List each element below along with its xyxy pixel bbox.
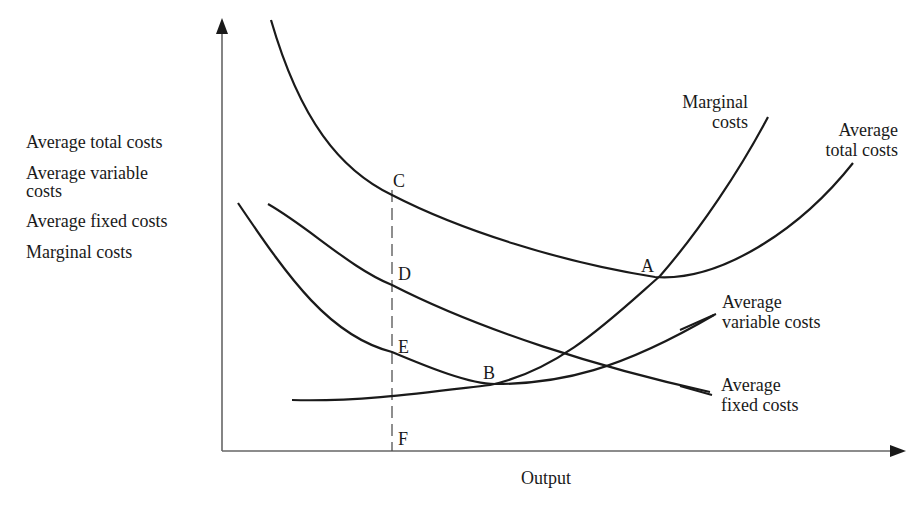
- point-label-b: B: [483, 363, 495, 383]
- axes: [216, 18, 906, 457]
- x-axis-arrow-icon: [890, 445, 906, 457]
- y-axis-label-atc: Average total costs: [26, 133, 163, 152]
- y-axis-label-afc: Average fixed costs: [26, 212, 168, 231]
- point-label-a: A: [641, 256, 654, 276]
- point-label-e: E: [398, 337, 409, 357]
- average-fixed-costs-label: Average fixed costs: [721, 375, 798, 415]
- y-axis-label-mc: Marginal costs: [26, 243, 132, 262]
- afc-label-line1: Average: [721, 375, 798, 395]
- atc-label-line2: total costs: [800, 140, 898, 160]
- average-total-costs-label: Average total costs: [800, 120, 898, 160]
- marginal-costs-curve: [292, 117, 768, 400]
- average-variable-costs-label: Average variable costs: [722, 292, 820, 332]
- marginal-costs-label: Marginal costs: [660, 92, 748, 132]
- marginal-costs-label-line1: Marginal: [660, 92, 748, 112]
- avc-label-line2: variable costs: [722, 312, 820, 332]
- average-total-costs-curve: [271, 20, 853, 277]
- afc-label-line2: fixed costs: [721, 395, 798, 415]
- avc-leader-line: [680, 314, 716, 330]
- y-axis-arrow-icon: [216, 18, 228, 34]
- point-label-f: F: [398, 429, 408, 449]
- marginal-costs-label-line2: costs: [660, 112, 748, 132]
- y-axis-label-avc-cont: costs: [26, 182, 62, 201]
- point-label-c: C: [393, 171, 405, 191]
- cost-curves-diagram: [0, 0, 922, 509]
- point-label-d: D: [398, 264, 411, 284]
- avc-label-line1: Average: [722, 292, 820, 312]
- x-axis-label: Output: [521, 468, 571, 488]
- atc-label-line1: Average: [800, 120, 898, 140]
